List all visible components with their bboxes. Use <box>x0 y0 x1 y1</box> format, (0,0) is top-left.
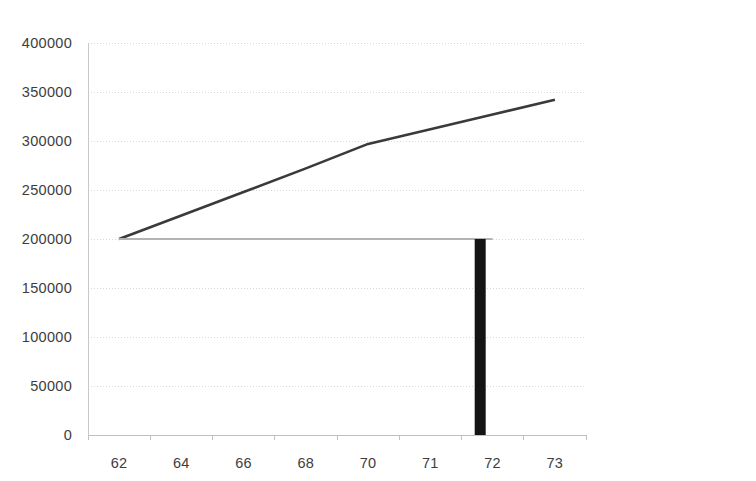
x-axis-tick-label: 73 <box>547 455 564 471</box>
chart-container: 0500001000001500002000002500003000003500… <box>0 0 756 481</box>
x-axis-tick-label: 71 <box>422 455 439 471</box>
x-axis-tick-label: 68 <box>298 455 315 471</box>
x-axis-tick-label: 70 <box>360 455 377 471</box>
y-axis-tick-label: 300000 <box>22 133 72 149</box>
vertical-bar-marker <box>475 239 486 435</box>
x-axis-tick-label: 62 <box>111 455 128 471</box>
series-line-hecm-loc <box>119 100 555 239</box>
y-axis-tick-label: 350000 <box>22 84 72 100</box>
y-axis-tick-label: 200000 <box>22 231 72 247</box>
bar-marker <box>475 239 486 435</box>
x-axis-tick-label: 64 <box>173 455 190 471</box>
y-axis-tick-label: 0 <box>64 427 72 443</box>
y-axis-tick-label: 50000 <box>30 378 72 394</box>
y-axis-tick-label: 100000 <box>22 329 72 345</box>
plot-area <box>0 0 756 481</box>
y-axis-tick-label: 250000 <box>22 182 72 198</box>
x-axis-tick-label: 66 <box>235 455 252 471</box>
y-axis-tick-label: 150000 <box>22 280 72 296</box>
axis-ticks <box>88 435 586 440</box>
x-axis-tick-label: 72 <box>484 455 501 471</box>
series-lines <box>119 100 555 239</box>
y-axis-tick-label: 400000 <box>22 35 72 51</box>
